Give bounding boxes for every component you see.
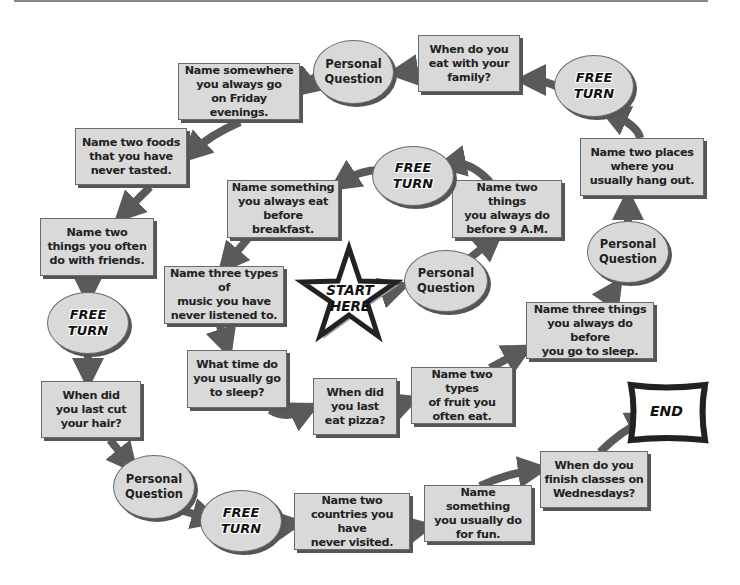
arrow-s23-to-s24 xyxy=(480,470,534,486)
question-space: When did you last eat pizza? xyxy=(313,378,397,435)
arrow-s9-to-s10 xyxy=(606,290,614,302)
personal-question-space: Personal Question xyxy=(313,40,394,104)
question-space: Name three things you always do before y… xyxy=(526,302,654,359)
end-label: END xyxy=(650,403,683,419)
arrow-s15-to-s16 xyxy=(192,122,240,152)
arrow-s19-to-s20 xyxy=(110,440,128,462)
arrow-s5-to-s6 xyxy=(220,326,226,344)
free-turn-space: FREE TURN xyxy=(47,292,129,354)
arrow-s8-to-s9 xyxy=(490,352,520,368)
question-space: Name somewhere you always go on Friday e… xyxy=(178,63,300,120)
arrow-s1-to-s2 xyxy=(470,240,492,258)
question-space: When do you finish classes on Wednesdays… xyxy=(540,451,648,508)
question-space: What time do you usually go to sleep? xyxy=(187,350,287,408)
question-space: Name something you always eat before bre… xyxy=(227,180,339,238)
arrow-s7-to-s8 xyxy=(398,402,406,405)
question-space: Name two things you often do with friend… xyxy=(40,218,154,276)
arrow-s4-to-s5 xyxy=(228,236,250,262)
arrow-s6-to-s7 xyxy=(270,410,306,415)
free-turn-space: FREE TURN xyxy=(200,490,282,552)
arrow-s21-to-s22 xyxy=(283,524,290,525)
arrow-s22-to-s23 xyxy=(410,528,420,530)
question-space: When did you last cut your hair? xyxy=(41,381,141,438)
free-turn-space: FREE TURN xyxy=(372,146,454,206)
question-space: Name two foods that you have never taste… xyxy=(75,128,187,185)
personal-question-space: Personal Question xyxy=(113,455,195,519)
free-turn-space: FREE TURN xyxy=(554,55,634,117)
arrow-s16-to-s17 xyxy=(125,187,150,212)
personal-question-space: Personal Question xyxy=(587,221,669,283)
question-space: Name two places where you usually hang o… xyxy=(580,138,704,196)
start-label: START HERE xyxy=(325,282,375,314)
question-space: Name something you usually do for fun. xyxy=(424,485,532,542)
question-space: When do you eat with your family? xyxy=(418,35,520,92)
arrow-s13-to-s14 xyxy=(402,70,418,72)
question-space: Name three types of music you have never… xyxy=(164,266,284,324)
question-space: Name two types of fruit you often eat. xyxy=(411,367,513,424)
question-space: Name two things you always do before 9 A… xyxy=(452,180,562,238)
personal-question-space: Personal Question xyxy=(404,250,488,312)
arrow-s11-to-s12 xyxy=(612,114,640,138)
question-space: Name two countries you have never visite… xyxy=(294,493,410,550)
